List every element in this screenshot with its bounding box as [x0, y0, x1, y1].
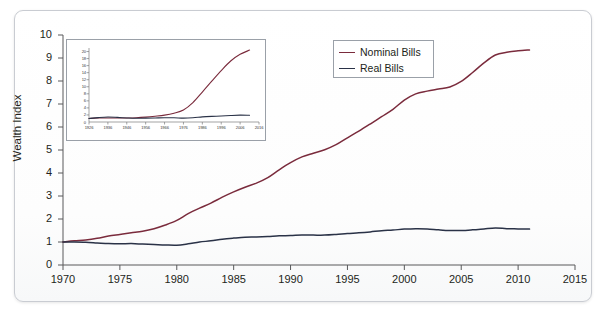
inset-y-tick-label: 2 [76, 112, 86, 117]
x-tick-label: 2015 [555, 273, 595, 285]
legend-swatch-real-bills [339, 68, 355, 69]
inset-x-tick-label: 1996 [212, 125, 230, 130]
y-tick-label: 8 [30, 74, 52, 86]
inset-x-tick-label: 1946 [118, 125, 136, 130]
legend-item-real-bills: Real Bills [339, 61, 428, 76]
inset-y-tick-label: 14 [76, 70, 86, 75]
main-chart: Wealth Index 012345678910 19701975198019… [0, 0, 608, 317]
x-tick-label: 1990 [271, 273, 311, 285]
inset-x-tick-label: 1966 [156, 125, 174, 130]
legend-item-nominal-bills: Nominal Bills [339, 45, 428, 60]
y-tick-label: 2 [30, 212, 52, 224]
y-tick-label: 1 [30, 235, 52, 247]
inset-x-tick-label: 1986 [193, 125, 211, 130]
inset-x-tick-label: 1936 [99, 125, 117, 130]
inset-chart: 02468101214161820 1926193619461956196619… [66, 39, 266, 141]
y-tick-label: 0 [30, 258, 52, 270]
inset-y-tick-label: 4 [76, 105, 86, 110]
inset-y-tick-label: 18 [76, 56, 86, 61]
x-tick-label: 1970 [43, 273, 83, 285]
inset-y-tick-label: 20 [76, 49, 86, 54]
x-tick-label: 1980 [157, 273, 197, 285]
inset-x-tick-label: 1956 [137, 125, 155, 130]
legend: Nominal Bills Real Bills [333, 40, 434, 78]
inset-y-tick-label: 12 [76, 77, 86, 82]
inset-x-tick-label: 1926 [80, 125, 98, 130]
x-tick-label: 1975 [100, 273, 140, 285]
legend-label-nominal-bills: Nominal Bills [360, 47, 421, 58]
x-tick-label: 2005 [441, 273, 481, 285]
y-axis-title: Wealth Index [11, 83, 23, 173]
y-tick-label: 5 [30, 143, 52, 155]
y-tick-label: 10 [30, 28, 52, 40]
inset-y-tick-label: 8 [76, 91, 86, 96]
figure-container: Wealth Index 012345678910 19701975198019… [0, 0, 608, 317]
y-tick-label: 4 [30, 166, 52, 178]
x-tick-label: 1985 [214, 273, 254, 285]
inset-y-tick-label: 16 [76, 63, 86, 68]
y-tick-label: 9 [30, 51, 52, 63]
inset-x-tick-label: 2006 [231, 125, 249, 130]
y-tick-label: 7 [30, 97, 52, 109]
inset-y-tick-label: 10 [76, 84, 86, 89]
x-tick-label: 2010 [498, 273, 538, 285]
inset-x-tick-label: 2016 [250, 125, 268, 130]
y-tick-label: 6 [30, 120, 52, 132]
inset-y-tick-label: 6 [76, 98, 86, 103]
inset-y-tick-label: 0 [76, 120, 86, 125]
x-tick-label: 2000 [384, 273, 424, 285]
legend-label-real-bills: Real Bills [360, 63, 404, 74]
legend-swatch-nominal-bills [339, 52, 355, 53]
x-tick-label: 1995 [327, 273, 367, 285]
y-tick-label: 3 [30, 189, 52, 201]
inset-x-tick-label: 1976 [174, 125, 192, 130]
